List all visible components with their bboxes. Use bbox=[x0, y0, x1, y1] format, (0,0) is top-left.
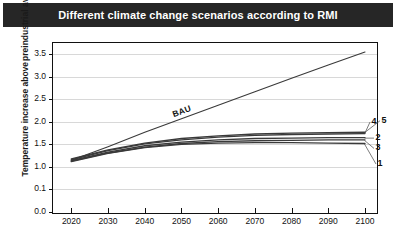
series-line-5 bbox=[71, 132, 365, 159]
y-tick-label: 3.5 bbox=[22, 49, 46, 58]
series-label-4: 4 bbox=[371, 117, 376, 126]
x-tick-label: 2070 bbox=[235, 216, 275, 226]
x-tick-label: 2020 bbox=[51, 216, 91, 226]
series-label-5: 5 bbox=[381, 116, 386, 125]
plot-area: 0.00.11.01.52.02.53.03.5 202020302040205… bbox=[52, 42, 378, 214]
chart-title-band: Different climate change scenarios accor… bbox=[3, 3, 393, 27]
y-tick-label: 2.5 bbox=[22, 94, 46, 103]
x-tick-label: 2030 bbox=[88, 216, 128, 226]
plot-inner: 0.00.11.01.52.02.53.03.5 202020302040205… bbox=[53, 43, 377, 213]
series-line-bau bbox=[71, 52, 365, 160]
x-tick-label: 2080 bbox=[272, 216, 312, 226]
series-label-3: 3 bbox=[375, 143, 380, 152]
y-tick-label: 1.5 bbox=[22, 139, 46, 148]
series-lines bbox=[53, 43, 404, 212]
y-tick-label: 1.0 bbox=[22, 162, 46, 171]
y-tick-label: 3.0 bbox=[22, 72, 46, 81]
y-tick bbox=[49, 212, 53, 213]
y-tick-label: 0.0 bbox=[22, 207, 46, 216]
series-line-1 bbox=[71, 143, 365, 162]
x-tick-label: 2040 bbox=[125, 216, 165, 226]
y-tick-label: 2.0 bbox=[22, 117, 46, 126]
y-tick-label: 0.1 bbox=[22, 184, 46, 193]
x-tick-label: 2050 bbox=[161, 216, 201, 226]
x-tick-label: 2060 bbox=[198, 216, 238, 226]
figure-root: Different climate change scenarios accor… bbox=[0, 0, 404, 244]
page-title: Different climate change scenarios accor… bbox=[58, 9, 338, 21]
series-label-2: 2 bbox=[375, 133, 380, 142]
x-tick-label: 2090 bbox=[308, 216, 348, 226]
series-label-1: 1 bbox=[377, 159, 382, 168]
x-tick-label: 2100 bbox=[345, 216, 385, 226]
